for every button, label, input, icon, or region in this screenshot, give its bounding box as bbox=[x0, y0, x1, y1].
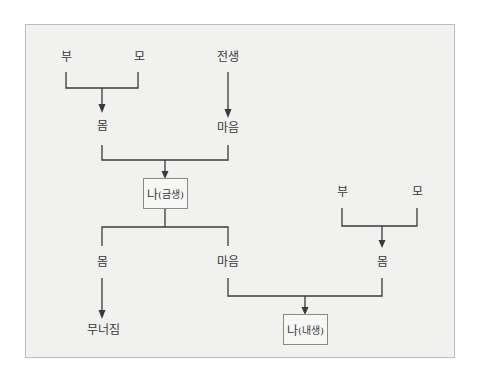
next-father-label: 부 bbox=[337, 186, 348, 198]
past-life-label: 전생 bbox=[217, 51, 239, 63]
next-mother-label: 모 bbox=[412, 186, 423, 198]
diagram-frame bbox=[25, 24, 455, 358]
collapse-label: 무너짐 bbox=[87, 324, 120, 336]
next-self-box: 나(내생) bbox=[283, 314, 328, 345]
body-label: 몸 bbox=[97, 120, 108, 132]
next-body-label: 몸 bbox=[377, 256, 388, 268]
next-self-main: 나 bbox=[287, 321, 298, 338]
split-mind-label: 마음 bbox=[217, 256, 239, 268]
present-self-main: 나 bbox=[147, 185, 158, 202]
next-self-sub: (내생) bbox=[298, 322, 324, 337]
mind-label: 마음 bbox=[217, 122, 239, 134]
present-self-sub: (금생) bbox=[158, 186, 184, 201]
mother-label: 모 bbox=[134, 51, 145, 63]
father-label: 부 bbox=[61, 51, 72, 63]
split-body-label: 몸 bbox=[97, 256, 108, 268]
present-self-box: 나(금생) bbox=[143, 178, 188, 209]
